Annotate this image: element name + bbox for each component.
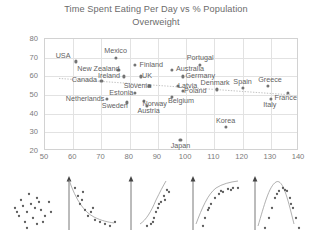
x-axis-tick-label: 110	[207, 152, 219, 161]
data-point-label: Canada	[72, 76, 97, 84]
data-point-label: Portugal	[187, 54, 214, 62]
y-axis-tick-label: 50	[30, 90, 38, 99]
y-axis-tick-label: 60	[30, 71, 38, 80]
correlation-thumbnail-strip	[0, 172, 312, 236]
thumbnail-decreasing-decay-scatter[interactable]	[64, 172, 122, 236]
data-point-label: Netherlands	[66, 95, 105, 103]
x-axis-tick-label: 70	[96, 152, 104, 161]
y-axis-labels: 20304050607080	[0, 38, 40, 150]
x-axis-labels: 5060708090100110120130140	[44, 152, 298, 166]
data-point-label: France	[275, 94, 297, 102]
x-axis-tick-label: 100	[179, 152, 192, 161]
x-axis-tick-label: 140	[292, 152, 305, 161]
y-axis-tick-label: 80	[30, 34, 38, 43]
scatter-plot-page: Time Spent Eating Per Day vs % Populatio…	[0, 0, 312, 236]
chart-title-line-2: Overweight	[0, 16, 312, 29]
data-point-label: Poland	[184, 87, 206, 95]
thumbnail-bell-peak-scatter[interactable]	[250, 172, 308, 236]
y-axis-tick-label: 40	[30, 108, 38, 117]
data-point-label: Belgium	[168, 97, 194, 105]
data-point-label: Mexico	[104, 47, 127, 55]
data-point-label: Japan	[171, 142, 191, 150]
data-point-label: Greece	[258, 76, 282, 84]
data-point-label: Sweden	[102, 102, 128, 110]
gridline-horizontal	[45, 58, 297, 59]
chart-title: Time Spent Eating Per Day vs % Populatio…	[0, 3, 312, 28]
main-chart: 20304050607080 USAMexicoFinlandPortugalN…	[0, 30, 312, 170]
chart-title-line-1: Time Spent Eating Per Day vs % Populatio…	[0, 3, 312, 16]
y-axis-tick-label: 30	[30, 127, 38, 136]
y-axis-tick-label: 20	[30, 146, 38, 155]
data-point-label: Finland	[140, 61, 164, 69]
data-point-label: Italy	[263, 101, 276, 109]
x-axis-tick-label: 120	[235, 152, 248, 161]
data-point-label: Spain	[233, 78, 251, 86]
x-axis-tick-label: 130	[263, 152, 276, 161]
x-axis-tick-label: 80	[124, 152, 132, 161]
x-axis-tick-label: 60	[68, 152, 76, 161]
data-point-label: Austria	[137, 107, 159, 115]
plot-area: USAMexicoFinlandPortugalNew ZealandAustr…	[44, 38, 298, 150]
data-point-label: Korea	[216, 117, 235, 125]
data-point-label: Estonia	[109, 89, 133, 97]
data-point-label: USA	[56, 52, 71, 60]
thumbnail-increasing-exponential-scatter[interactable]	[126, 172, 184, 236]
gridline-horizontal	[45, 132, 297, 133]
thumbnail-no-correlation-scatter[interactable]	[2, 172, 60, 236]
data-point-label: UK	[142, 72, 152, 80]
x-axis-tick-label: 90	[153, 152, 161, 161]
gridline-horizontal	[45, 114, 297, 115]
x-axis-tick-label: 50	[40, 152, 48, 161]
thumbnail-logarithmic-saturating-scatter[interactable]	[188, 172, 246, 236]
y-axis-tick-label: 70	[30, 52, 38, 61]
